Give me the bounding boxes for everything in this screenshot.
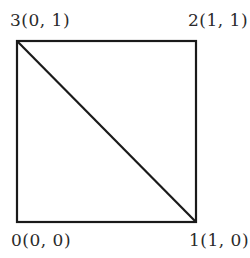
vertex-label-0: 0(0, 0) bbox=[11, 230, 71, 250]
diagonal-edge-3-1 bbox=[17, 41, 196, 222]
vertex-label-3: 3(0, 1) bbox=[10, 10, 70, 30]
vertex-label-2: 2(1, 1) bbox=[188, 10, 248, 30]
square-diagram bbox=[0, 0, 250, 258]
vertex-label-1: 1(1, 0) bbox=[189, 230, 249, 250]
